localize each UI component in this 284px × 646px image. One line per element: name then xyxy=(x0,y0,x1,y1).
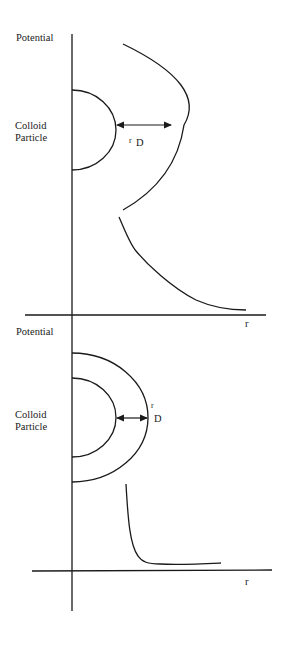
bottom-panel xyxy=(32,353,272,571)
potential-decay-curve xyxy=(119,217,246,310)
particle-label: Particle xyxy=(15,132,47,144)
particle-label: Particle xyxy=(15,421,47,433)
distance-axis xyxy=(32,570,272,571)
y-axis-label: Potential xyxy=(16,326,53,338)
double-layer-boundary xyxy=(123,44,189,210)
x-axis-label: r xyxy=(245,576,249,588)
x-axis-label: r xyxy=(245,318,249,330)
debye-length-label-d: D xyxy=(136,137,144,149)
colloid-particle-shape xyxy=(72,378,116,457)
colloid-particle-shape xyxy=(72,90,116,170)
debye-length-label-d: D xyxy=(154,413,162,425)
debye-length-label-r: r xyxy=(151,400,154,412)
particle-label: Colloid xyxy=(15,409,47,421)
double-layer-diagram xyxy=(0,0,284,646)
y-axis-label: Potential xyxy=(16,32,53,44)
potential-decay-curve xyxy=(126,484,221,564)
particle-label: Colloid xyxy=(15,120,47,132)
top-panel xyxy=(25,44,266,315)
debye-length-label-r: r xyxy=(129,135,132,147)
